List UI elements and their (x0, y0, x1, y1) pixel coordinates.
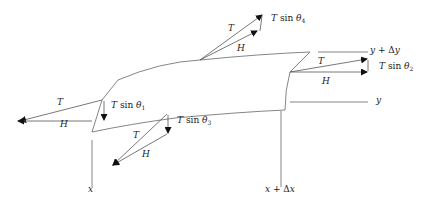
diagram-canvas (0, 0, 422, 203)
label-T-left: T (57, 98, 63, 107)
label-x: x (88, 185, 93, 194)
element-right-edge (285, 52, 310, 110)
H-bottom-arrow (113, 134, 167, 165)
label-y-plus-dy: y + Δy (370, 46, 400, 55)
label-H-top: H (237, 44, 245, 53)
label-Tsin-theta1: T sin θ1 (111, 101, 145, 111)
label-y: y (376, 96, 381, 105)
label-Tsin-theta3: T sin θ3 (177, 116, 211, 126)
element-top-edge (118, 52, 310, 80)
label-x-plus-dx: x + Δx (265, 185, 295, 194)
label-T-right: T (318, 57, 324, 66)
label-Tsin-theta4: T sin θ4 (271, 14, 305, 24)
T-bottom-arrow (113, 114, 167, 165)
T-top-arrow (200, 15, 262, 60)
label-H-right: H (322, 77, 330, 86)
Tsin4-arrow (260, 16, 262, 31)
label-Tsin-theta2: T sin θ2 (379, 62, 413, 72)
label-T-top: T (228, 24, 234, 33)
label-H-bottom: H (142, 150, 150, 159)
label-H-left: H (60, 120, 68, 129)
label-T-bottom: T (133, 131, 139, 140)
